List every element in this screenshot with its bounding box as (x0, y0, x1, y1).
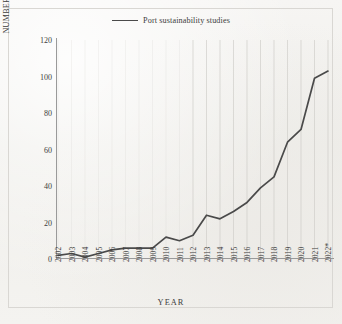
x-tick-label: 2009 (148, 247, 157, 262)
plot-area: 0204060801001202002200320042005200620072… (56, 40, 334, 259)
y-axis-title: NUMBER OF PUBLICATIONS (2, 0, 11, 62)
x-tick-label: 2013 (202, 247, 211, 262)
y-tick-label: 80 (44, 109, 52, 118)
x-tick-label: 2012 (189, 247, 198, 262)
chart-legend: Port sustainability studies (0, 16, 342, 25)
y-tick-label: 40 (44, 182, 52, 191)
x-tick-label: 2002 (54, 247, 63, 262)
x-tick-label: 2008 (135, 247, 144, 262)
x-tick-label: 2005 (94, 247, 103, 262)
x-tick-label: 2007 (121, 247, 130, 262)
x-tick-label: 2010 (162, 247, 171, 262)
x-tick-label: 2004 (81, 247, 90, 262)
x-tick-label: 2020 (297, 247, 306, 262)
x-tick-label: 2006 (108, 247, 117, 262)
y-tick-label: 0 (48, 255, 52, 264)
legend-line-swatch (112, 20, 138, 21)
y-tick-label: 20 (44, 218, 52, 227)
y-tick-label: 100 (40, 72, 52, 81)
x-tick-label: 2018 (270, 247, 279, 262)
x-tick-label: 2017 (256, 247, 265, 262)
y-axis-line (56, 38, 57, 259)
x-axis-title: YEAR (0, 298, 342, 307)
x-tick-label: 2016 (243, 247, 252, 262)
legend-label: Port sustainability studies (143, 16, 230, 25)
y-tick-label: 120 (40, 36, 52, 45)
x-tick-label: 2011 (175, 247, 184, 262)
x-tick-label: 2015 (229, 247, 238, 262)
y-tick-label: 60 (44, 145, 52, 154)
x-tick-label: 2022* (324, 243, 333, 262)
chart-figure: Port sustainability studies NUMBER OF PU… (0, 0, 342, 324)
x-tick-label: 2003 (67, 247, 76, 262)
x-tick-label: 2021 (310, 247, 319, 262)
x-tick-label: 2014 (216, 247, 225, 262)
x-tick-label: 2019 (283, 247, 292, 262)
series-canvas (56, 40, 334, 259)
